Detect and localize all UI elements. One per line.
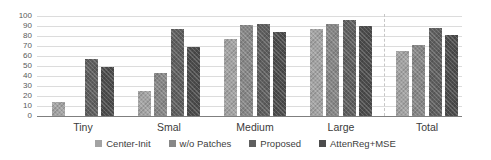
bar-tiny-attenreg-mse xyxy=(101,67,114,116)
legend-item-center-init: Center-Init xyxy=(95,138,150,149)
legend-item-attenreg-mse: AttenReg+MSE xyxy=(319,138,396,149)
chart-legend: Center-Initw/o PatchesProposedAttenReg+M… xyxy=(0,138,491,149)
legend-label: AttenReg+MSE xyxy=(330,138,396,149)
bar-medium-attenreg-mse xyxy=(273,32,286,116)
x-axis-label-total: Total xyxy=(387,121,467,133)
gridline-y-100 xyxy=(37,16,462,17)
bar-total-center-init xyxy=(396,51,409,116)
bar-large-w-o-patches xyxy=(326,24,339,116)
legend-label: Proposed xyxy=(260,138,301,149)
x-axis-label-smal: Smal xyxy=(129,121,209,133)
y-axis-tick-80: 80 xyxy=(8,32,32,40)
bar-smal-center-init xyxy=(138,91,151,116)
y-axis-tick-20: 20 xyxy=(8,92,32,100)
y-axis-tick-30: 30 xyxy=(8,82,32,90)
grouped-bar-chart: 0102030405060708090100 Center-Initw/o Pa… xyxy=(0,0,491,160)
bar-total-attenreg-mse xyxy=(445,35,458,116)
plot-area: 0102030405060708090100 xyxy=(37,16,462,116)
y-axis-tick-90: 90 xyxy=(8,22,32,30)
legend-swatch-icon xyxy=(249,140,256,147)
total-separator-dashed-line xyxy=(384,14,385,116)
y-axis-tick-100: 100 xyxy=(8,12,32,20)
bar-large-proposed xyxy=(343,20,356,116)
bar-large-attenreg-mse xyxy=(359,26,372,116)
bar-tiny-center-init xyxy=(52,102,65,116)
bar-smal-proposed xyxy=(171,29,184,116)
bar-medium-w-o-patches xyxy=(240,25,253,116)
bar-smal-w-o-patches xyxy=(154,73,167,116)
bar-medium-proposed xyxy=(257,24,270,116)
x-axis-label-medium: Medium xyxy=(215,121,295,133)
y-axis-tick-10: 10 xyxy=(8,102,32,110)
legend-label: Center-Init xyxy=(106,138,150,149)
y-axis-tick-60: 60 xyxy=(8,52,32,60)
y-axis-tick-0: 0 xyxy=(8,112,32,120)
x-axis-label-large: Large xyxy=(301,121,381,133)
legend-swatch-icon xyxy=(319,140,326,147)
x-axis-label-tiny: Tiny xyxy=(43,121,123,133)
legend-swatch-icon xyxy=(95,140,102,147)
bar-tiny-proposed xyxy=(85,59,98,116)
legend-swatch-icon xyxy=(169,140,176,147)
bar-total-w-o-patches xyxy=(412,45,425,116)
legend-item-proposed: Proposed xyxy=(249,138,301,149)
bar-total-proposed xyxy=(429,28,442,116)
bar-medium-center-init xyxy=(224,39,237,116)
y-axis-tick-40: 40 xyxy=(8,72,32,80)
y-axis-tick-70: 70 xyxy=(8,42,32,50)
legend-item-w-o-patches: w/o Patches xyxy=(169,138,232,149)
bar-large-center-init xyxy=(310,29,323,116)
y-axis-tick-50: 50 xyxy=(8,62,32,70)
bar-smal-attenreg-mse xyxy=(187,47,200,116)
legend-label: w/o Patches xyxy=(180,138,232,149)
x-axis-line xyxy=(37,116,462,117)
